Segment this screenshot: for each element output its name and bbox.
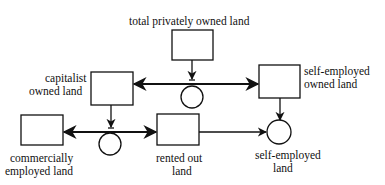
stock-total-privately-owned-land[interactable] [172, 30, 213, 60]
label-self-employed-owned-land-2: owned land [304, 78, 357, 91]
label-capitalist-owned-land-2: owned land [29, 85, 82, 98]
label-total-privately-owned-land: total privately owned land [129, 15, 249, 28]
label-self-employed-land-2: land [273, 162, 293, 175]
stock-capitalist-owned-land[interactable] [91, 72, 133, 105]
label-capitalist-owned-land-1: capitalist [45, 72, 87, 85]
label-commercially-employed-land-1: commercially [10, 152, 73, 165]
label-commercially-employed-land-2: employed land [5, 165, 73, 178]
stock-rented-out-land[interactable] [157, 114, 199, 145]
label-rented-out-land-1: rented out [156, 152, 202, 165]
split-node-upper[interactable] [181, 86, 203, 108]
stock-commercially-employed-land[interactable] [21, 115, 63, 145]
label-self-employed-owned-land-1: self-employed [304, 65, 370, 78]
split-node-lower[interactable] [99, 133, 121, 155]
stock-self-employed-owned-land[interactable] [259, 65, 300, 98]
aux-self-employed-land[interactable] [267, 120, 291, 144]
label-rented-out-land-2: land [172, 165, 192, 178]
label-self-employed-land-1: self-employed [255, 149, 321, 162]
